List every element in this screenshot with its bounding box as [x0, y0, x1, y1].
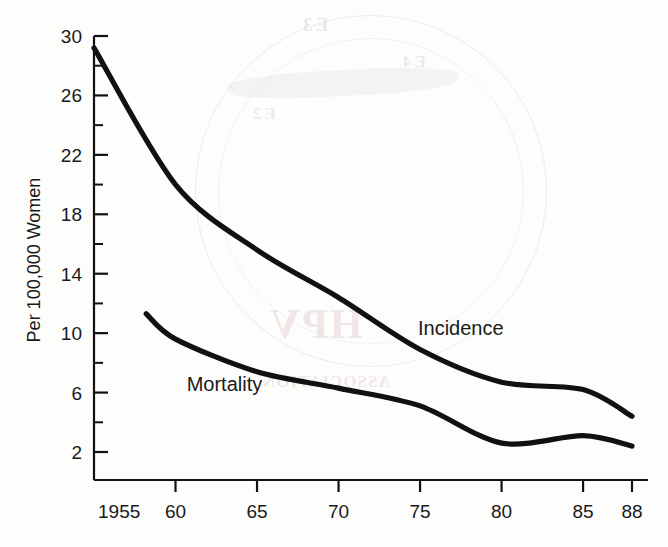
x-axis-tick-label: 70 [328, 501, 349, 522]
series-line-incidence [94, 48, 632, 416]
x-axis-tick-label: 80 [491, 501, 512, 522]
y-axis-tick-label: 26 [61, 85, 82, 106]
series-label-mortality: Mortality [187, 373, 263, 395]
x-axis-tick-label: 85 [573, 501, 594, 522]
y-axis-tick-label: 10 [61, 323, 82, 344]
y-axis: 26101418222630 [61, 26, 108, 480]
chart-figure: HPV ASSOCIATION E3 E4 E2 26101418222630 … [0, 0, 668, 547]
y-axis-tick-label: 18 [61, 204, 82, 225]
x-axis-tick-label: 65 [246, 501, 267, 522]
y-axis-tick-label: 30 [61, 26, 82, 47]
series-label-incidence: Incidence [418, 317, 504, 339]
x-axis-tick-label: 60 [165, 501, 186, 522]
data-series-group [94, 48, 632, 446]
x-axis-tick-label: 75 [409, 501, 430, 522]
y-axis-tick-label: 14 [61, 264, 83, 285]
series-labels-group: IncidenceMortality [187, 317, 504, 395]
x-axis-tick-label: 1955 [98, 501, 140, 522]
y-axis-tick-label: 2 [71, 442, 82, 463]
chart-plot-area: 26101418222630 195560657075808588 Incide… [0, 0, 668, 547]
y-axis-tick-label: 6 [71, 383, 82, 404]
y-axis-tick-label: 22 [61, 145, 82, 166]
x-axis-tick-label: 88 [621, 501, 642, 522]
y-axis-title: Per 100,000 Women [24, 178, 44, 343]
x-axis: 195560657075808588 [94, 480, 648, 522]
